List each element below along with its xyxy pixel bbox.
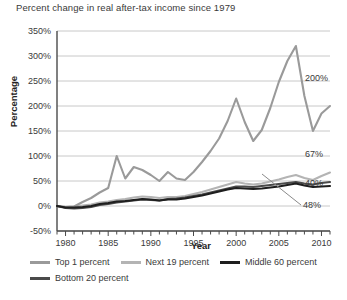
x-tick-label: 2010 bbox=[311, 238, 331, 248]
end-label-next-19-percent: 67% bbox=[305, 149, 323, 159]
legend-swatch-icon bbox=[121, 261, 141, 264]
y-tick-label: 0% bbox=[38, 201, 51, 211]
legend-item-next-19-percent[interactable]: Next 19 percent bbox=[121, 257, 210, 267]
legend-label: Bottom 20 percent bbox=[55, 273, 129, 283]
y-tick-label: 50% bbox=[33, 176, 51, 186]
y-tick-label: 200% bbox=[28, 101, 51, 111]
end-label-bottom-20-percent: 48% bbox=[303, 200, 321, 210]
x-tick-label: 2005 bbox=[269, 238, 289, 248]
legend-swatch-icon bbox=[220, 261, 240, 264]
y-tick-label: 350% bbox=[28, 26, 51, 36]
x-tick-label: 1990 bbox=[141, 238, 161, 248]
y-tick-label: 300% bbox=[28, 51, 51, 61]
x-axis-tick-marks bbox=[57, 231, 330, 236]
y-tick-label: 150% bbox=[28, 126, 51, 136]
legend-label: Top 1 percent bbox=[55, 257, 110, 267]
legend-item-middle-60-percent[interactable]: Middle 60 percent bbox=[220, 257, 317, 267]
x-tick-label: 1985 bbox=[98, 238, 118, 248]
data-series-lines bbox=[57, 46, 330, 209]
legend-label: Middle 60 percent bbox=[245, 257, 317, 267]
series-line bbox=[57, 173, 330, 208]
legend-row-1: Top 1 percent Next 19 percent Middle 60 … bbox=[30, 254, 347, 270]
legend-label: Next 19 percent bbox=[146, 257, 210, 267]
y-axis-tick-labels: 350%300%250%200%150%100%50%0%-50% bbox=[28, 26, 51, 236]
gridlines bbox=[57, 31, 330, 231]
legend-row-2: Bottom 20 percent bbox=[30, 270, 347, 286]
y-tick-label: -50% bbox=[30, 226, 51, 236]
x-tick-label: 1980 bbox=[56, 238, 76, 248]
legend-item-bottom-20-percent[interactable]: Bottom 20 percent bbox=[30, 273, 129, 283]
x-tick-label: 1995 bbox=[183, 238, 203, 248]
chart-legend: Top 1 percent Next 19 percent Middle 60 … bbox=[30, 254, 347, 286]
x-tick-label: 2000 bbox=[226, 238, 246, 248]
end-label-top-1-percent: 200% bbox=[305, 73, 328, 83]
legend-swatch-icon bbox=[30, 277, 50, 280]
end-label-middle-60-percent: 40% bbox=[305, 178, 323, 188]
y-tick-label: 100% bbox=[28, 151, 51, 161]
legend-swatch-icon bbox=[30, 261, 50, 264]
y-tick-label: 250% bbox=[28, 76, 51, 86]
series-end-annotations: 200%67%40%48% bbox=[262, 73, 328, 210]
x-axis-tick-labels: 1980198519901995200020052010 bbox=[56, 238, 332, 248]
legend-item-top-1-percent[interactable]: Top 1 percent bbox=[30, 257, 110, 267]
chart-container: Percent change in real after-tax income … bbox=[0, 0, 347, 300]
